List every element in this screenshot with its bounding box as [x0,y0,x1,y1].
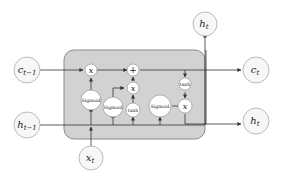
sigmoid-forget-op: Sigmoid [81,90,101,110]
lstm-diagram: ct−1 ht−1 xt ht ct ht x + x tanh Sigmoid [0,0,282,178]
output-h-t-top: ht [193,12,217,36]
svg-text:Sigmoid: Sigmoid [151,104,170,109]
input-c-prev: ct−1 [14,57,40,83]
tanh-output-op: tanh [179,78,191,90]
forget-multiply-op: x [85,64,97,76]
svg-text:x: x [89,66,94,75]
svg-text:Sigmoid: Sigmoid [82,98,101,103]
add-op: + [127,64,139,76]
svg-text:Sigmoid: Sigmoid [104,105,123,110]
sigmoid-input-op: Sigmoid [103,97,123,117]
input-h-prev: ht−1 [14,112,40,138]
svg-text:tanh: tanh [128,108,138,113]
svg-text:tanh: tanh [180,82,190,87]
svg-text:x: x [131,84,136,93]
svg-text:+: + [129,65,137,75]
input-multiply-op: x [127,82,139,94]
output-h-t-right: ht [243,108,269,134]
input-x-t: xt [79,146,103,170]
output-c-t: ct [243,57,269,83]
output-multiply-op: x [178,99,192,113]
tanh-candidate-op: tanh [126,103,140,117]
sigmoid-output-op: Sigmoid [149,95,171,117]
svg-text:x: x [183,102,188,111]
